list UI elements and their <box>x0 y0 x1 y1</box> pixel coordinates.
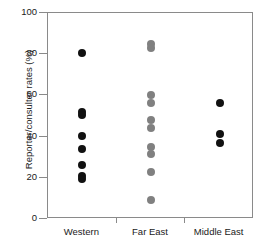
y-axis-tick <box>39 136 47 137</box>
x-axis-tick <box>116 218 117 223</box>
y-axis-tick <box>39 94 47 95</box>
y-axis-tick-label: 20 <box>0 172 37 182</box>
chart-container: Reporter/consulter rates (%) 02040608010… <box>0 0 263 247</box>
data-point <box>216 130 224 138</box>
data-point <box>147 124 155 132</box>
data-point <box>147 196 155 204</box>
y-axis-tick-label: 100 <box>0 7 37 17</box>
x-axis-tick <box>184 218 185 223</box>
data-point <box>78 49 86 57</box>
y-axis-tick-label: 80 <box>0 48 37 58</box>
y-axis-tick <box>39 12 47 13</box>
data-point <box>216 99 224 107</box>
data-point <box>78 132 86 140</box>
y-axis-tick-label: 0 <box>0 213 37 223</box>
data-point <box>147 116 155 124</box>
data-point <box>147 168 155 176</box>
data-point <box>78 111 86 119</box>
data-point <box>147 44 155 52</box>
plot-area <box>47 12 253 218</box>
data-point <box>78 175 86 183</box>
data-point <box>78 161 86 169</box>
data-point <box>147 99 155 107</box>
y-axis-tick-label: 40 <box>0 131 37 141</box>
data-point <box>216 139 224 147</box>
y-axis-tick <box>39 53 47 54</box>
y-axis-tick <box>39 177 47 178</box>
data-point <box>78 145 86 153</box>
y-axis-tick-label: 60 <box>0 89 37 99</box>
y-axis-tick <box>39 218 47 219</box>
x-axis-category-label: Middle East <box>174 227 263 237</box>
data-point <box>147 150 155 158</box>
